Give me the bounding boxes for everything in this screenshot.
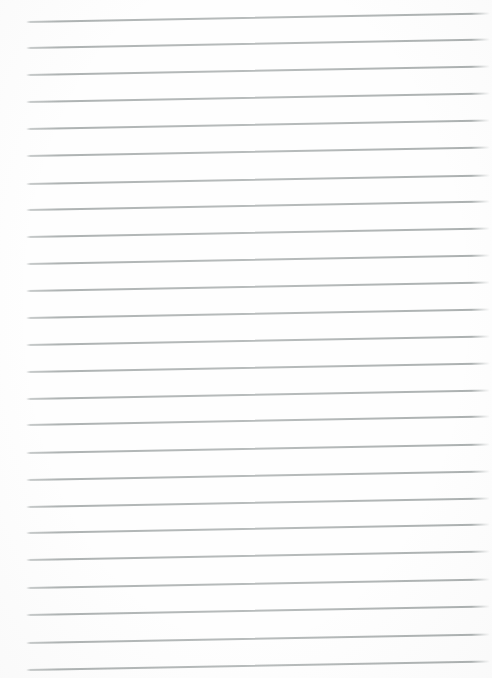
ruled-line — [26, 606, 490, 616]
ruled-line — [26, 282, 490, 292]
ruled-line — [26, 443, 490, 453]
ruled-line — [26, 201, 490, 211]
ruled-line — [26, 470, 490, 480]
ruled-line — [26, 524, 490, 534]
ruled-line — [26, 660, 490, 670]
ruled-lines-layer — [0, 0, 492, 678]
ruled-line — [26, 551, 490, 561]
ruled-line — [26, 119, 490, 129]
ruled-line — [26, 174, 490, 184]
ruled-line — [26, 578, 490, 588]
ruled-line — [26, 146, 490, 156]
ruled-line — [26, 335, 490, 345]
ruled-line — [26, 92, 490, 102]
ruled-line — [26, 255, 490, 265]
ruled-line — [26, 633, 490, 643]
ruled-line — [26, 497, 490, 507]
ruled-line — [26, 227, 490, 237]
ruled-line — [26, 66, 490, 76]
ruled-line — [26, 39, 490, 49]
ruled-line — [26, 389, 490, 399]
ruled-line — [26, 362, 490, 372]
ruled-line — [26, 309, 490, 319]
ruled-line — [26, 416, 490, 426]
notebook-page — [0, 0, 492, 678]
ruled-line — [26, 12, 490, 22]
